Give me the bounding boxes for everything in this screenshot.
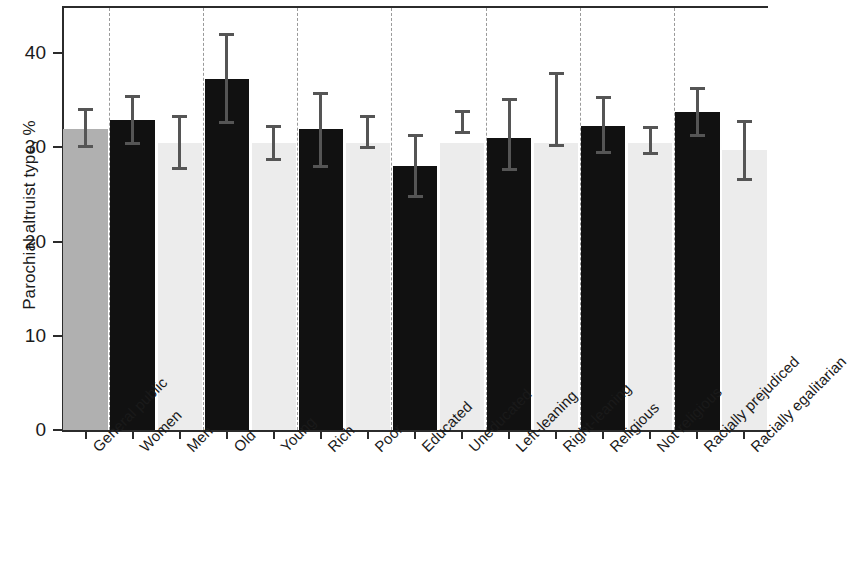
bar[interactable] — [534, 143, 578, 430]
error-bar-cap — [455, 131, 470, 134]
error-bar-line — [649, 126, 652, 155]
error-bar-cap — [313, 165, 328, 168]
error-bar-cap — [125, 95, 140, 98]
error-bar-line — [696, 87, 699, 137]
bars-container — [62, 6, 768, 430]
error-bar-cap — [360, 146, 375, 149]
error-bar-cap — [690, 87, 705, 90]
bar[interactable] — [63, 129, 107, 431]
error-bar-cap — [643, 152, 658, 155]
x-tick-mark — [179, 430, 181, 439]
x-tick-mark — [320, 430, 322, 439]
error-bar-cap — [172, 167, 187, 170]
error-bar-line — [508, 98, 511, 171]
x-tick-mark — [743, 430, 745, 439]
y-tick-label: 0 — [0, 419, 46, 441]
bar[interactable] — [346, 143, 390, 430]
y-tick-mark — [53, 146, 62, 148]
y-tick-label: 20 — [0, 231, 46, 253]
y-tick-label: 40 — [0, 42, 46, 64]
error-bar-line — [272, 125, 275, 161]
error-bar-cap — [172, 115, 187, 118]
error-bar-cap — [408, 195, 423, 198]
error-bar-cap — [549, 72, 564, 75]
x-tick-mark — [555, 430, 557, 439]
error-bar-cap — [408, 134, 423, 137]
error-bar-cap — [455, 110, 470, 113]
bar[interactable] — [252, 143, 296, 430]
error-bar-line — [225, 33, 228, 123]
x-tick-mark — [461, 430, 463, 439]
error-bar-cap — [690, 134, 705, 137]
group-separator — [297, 8, 298, 430]
x-tick-mark — [414, 430, 416, 439]
y-tick-mark — [53, 52, 62, 54]
error-bar-line — [178, 115, 181, 170]
error-bar-cap — [266, 158, 281, 161]
error-bar-cap — [737, 120, 752, 123]
y-tick-mark — [53, 241, 62, 243]
group-separator — [486, 8, 487, 430]
bar[interactable] — [393, 166, 437, 430]
error-bar-cap — [596, 96, 611, 99]
error-bar-line — [602, 96, 605, 153]
x-tick-mark — [696, 430, 698, 439]
group-separator — [391, 8, 392, 430]
error-bar-cap — [502, 168, 517, 171]
error-bar-line — [319, 92, 322, 168]
group-separator — [674, 8, 675, 430]
error-bar-cap — [549, 144, 564, 147]
x-tick-mark — [649, 430, 651, 439]
y-tick-label: 10 — [0, 325, 46, 347]
x-tick-mark — [273, 430, 275, 439]
error-bar-cap — [266, 125, 281, 128]
error-bar-line — [414, 134, 417, 198]
error-bar-cap — [360, 115, 375, 118]
y-tick-mark — [53, 335, 62, 337]
y-tick-mark — [53, 429, 62, 431]
error-bar-cap — [125, 142, 140, 145]
group-separator — [109, 8, 110, 430]
error-bar-cap — [737, 178, 752, 181]
error-bar-line — [555, 72, 558, 147]
x-tick-mark — [132, 430, 134, 439]
error-bar-line — [366, 115, 369, 149]
x-tick-mark — [602, 430, 604, 439]
error-bar-line — [84, 108, 87, 149]
error-bar-cap — [78, 145, 93, 148]
group-separator — [580, 8, 581, 430]
bar[interactable] — [299, 129, 343, 430]
x-tick-mark — [508, 430, 510, 439]
group-separator — [203, 8, 204, 430]
error-bar-cap — [219, 121, 234, 124]
error-bar-cap — [313, 92, 328, 95]
y-tick-label: 30 — [0, 136, 46, 158]
bar[interactable] — [205, 79, 249, 430]
x-tick-mark — [367, 430, 369, 439]
error-bar-line — [743, 120, 746, 181]
error-bar-cap — [596, 151, 611, 154]
bar[interactable] — [628, 143, 672, 430]
error-bar-cap — [219, 33, 234, 36]
error-bar-line — [131, 95, 134, 146]
bar[interactable] — [440, 143, 484, 430]
x-tick-mark — [85, 430, 87, 439]
error-bar-cap — [643, 126, 658, 129]
x-tick-mark — [226, 430, 228, 439]
error-bar-cap — [502, 98, 517, 101]
error-bar-cap — [78, 108, 93, 111]
